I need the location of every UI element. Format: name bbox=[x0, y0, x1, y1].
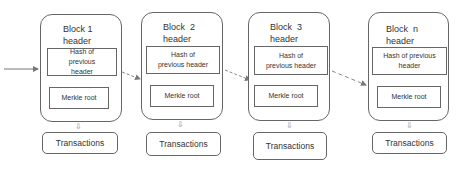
block-2: Block 2 header Hash of previous header M… bbox=[141, 12, 223, 120]
block-1: Block 1 header Hash of previous header M… bbox=[40, 14, 122, 122]
block-title-line1: Block 3 bbox=[270, 21, 302, 33]
merkle-root-box: Merkle root bbox=[150, 85, 214, 107]
merkle-label: Merkle root bbox=[164, 91, 199, 101]
hash-previous-header-box: Hash of previous header bbox=[254, 46, 328, 75]
block-n: Block n header Hash of previous header M… bbox=[368, 12, 449, 121]
block-title-line2: header bbox=[386, 35, 418, 47]
merkle-root-box: Merkle root bbox=[377, 86, 441, 108]
transactions-box-1: Transactions bbox=[42, 132, 118, 154]
hash-label: Hash of previous header bbox=[265, 51, 317, 71]
merkle-label: Merkle root bbox=[391, 92, 426, 102]
arrow-block2-to-block3 bbox=[225, 70, 250, 80]
transactions-box-n: Transactions bbox=[372, 132, 447, 154]
merkle-root-box: Merkle root bbox=[254, 85, 318, 107]
merkle-label: Merkle root bbox=[268, 91, 303, 101]
block-n-title: Block n header bbox=[386, 23, 418, 47]
hash-label: Hash of previous header bbox=[157, 50, 209, 70]
hash-previous-header-box: Hash of previous header bbox=[47, 48, 117, 76]
block-2-title: Block 2 header bbox=[163, 21, 195, 45]
block-1-title: Block 1 header bbox=[63, 23, 93, 47]
down-arrow-icon: ⇩ bbox=[406, 122, 413, 130]
block-title-line1: Block n bbox=[386, 23, 418, 35]
arrow-block1-to-block2 bbox=[122, 72, 140, 79]
block-title-line1: Block 2 bbox=[163, 21, 195, 33]
hash-label: Hash of previous header bbox=[379, 51, 441, 71]
block-3-title: Block 3 header bbox=[270, 21, 302, 45]
block-title-line2: header bbox=[163, 33, 195, 45]
transactions-label: Transactions bbox=[385, 138, 433, 148]
block-title-line1: Block 1 bbox=[63, 23, 93, 35]
transactions-label: Transactions bbox=[56, 138, 104, 148]
down-arrow-icon: ⇩ bbox=[75, 123, 82, 131]
transactions-box-2: Transactions bbox=[146, 132, 221, 156]
hash-previous-header-box: Hash of previous header bbox=[372, 47, 447, 75]
hash-label: Hash of previous header bbox=[57, 47, 107, 77]
transactions-label: Transactions bbox=[159, 139, 207, 149]
down-arrow-icon: ⇩ bbox=[177, 121, 184, 129]
transactions-box-3: Transactions bbox=[253, 132, 327, 160]
merkle-label: Merkle root bbox=[61, 93, 96, 103]
transactions-label: Transactions bbox=[266, 141, 314, 151]
block-title-line2: header bbox=[270, 33, 302, 45]
block-3: Block 3 header Hash of previous header M… bbox=[248, 12, 330, 121]
hash-previous-header-box: Hash of previous header bbox=[146, 46, 220, 74]
down-arrow-icon: ⇩ bbox=[286, 122, 293, 130]
block-title-line2: header bbox=[63, 35, 93, 47]
arrow-block3-to-blockn bbox=[332, 71, 366, 85]
merkle-root-box: Merkle root bbox=[49, 87, 109, 109]
